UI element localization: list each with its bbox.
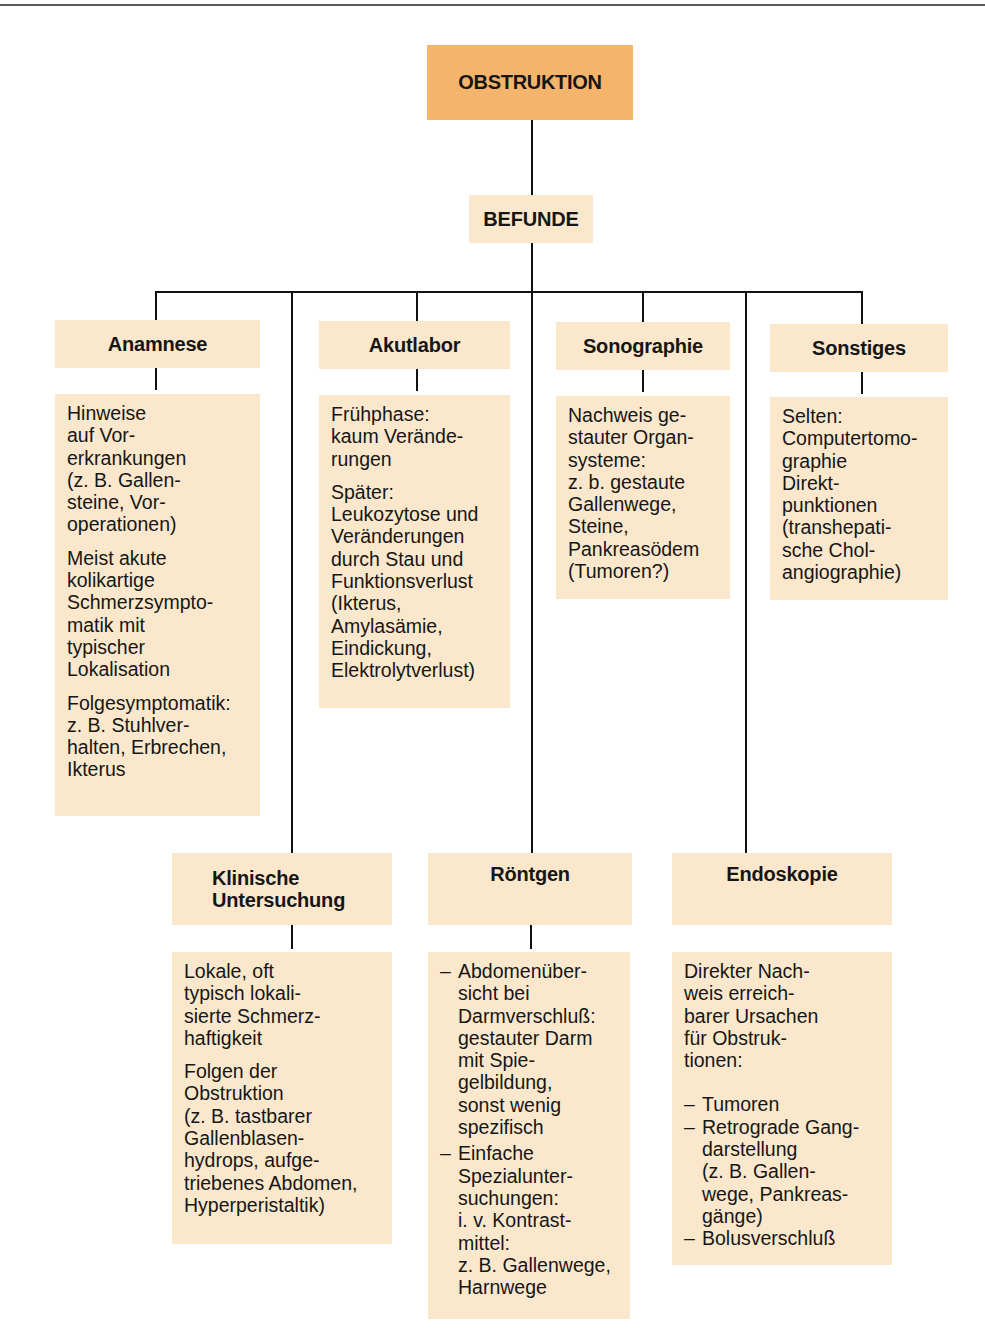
roentgen-bullet: Abdomenüber- sicht bei Darmverschluß: ge…	[440, 960, 620, 1138]
sonstiges-title: Sonstiges	[812, 337, 906, 360]
akutlabor-paragraph: Frühphase: kaum Verände- rungen	[331, 403, 500, 470]
connector-akutlabor	[416, 291, 418, 321]
roentgen-bullet-list: Abdomenüber- sicht bei Darmverschluß: ge…	[440, 960, 620, 1298]
connector-akutlabor-content	[416, 369, 418, 391]
klinische-paragraph: Folgen der Obstruktion (z. B. tastbarer …	[184, 1060, 382, 1216]
klinische-title: Klinische Untersuchung	[212, 867, 345, 911]
content-sonstiges: Selten: Computertomo- graphie Direkt- pu…	[770, 397, 948, 600]
connector-roentgen-content	[530, 925, 532, 949]
root-title: OBSTRUKTION	[458, 71, 601, 94]
header-klinische-untersuchung: Klinische Untersuchung	[172, 853, 392, 925]
connector-sonographie-content	[642, 370, 644, 392]
header-sonstiges: Sonstiges	[770, 324, 948, 372]
connector-sonstiges-content	[861, 372, 863, 394]
content-endoskopie: Direkter Nach- weis erreich- barer Ursac…	[672, 952, 892, 1265]
top-rule	[0, 4, 985, 6]
root-node-obstruktion: OBSTRUKTION	[427, 45, 633, 120]
akutlabor-paragraph: Später: Leukozytose und Veränderungen du…	[331, 481, 500, 682]
anamnese-paragraph: Meist akute kolikartige Schmerzsympto- m…	[67, 547, 250, 681]
connector-klinische	[291, 291, 293, 853]
content-anamnese: Hinweise auf Vor- erkrankungen (z. B. Ga…	[55, 394, 260, 816]
endoskopie-bullet: Tumoren	[684, 1093, 882, 1115]
header-sonographie: Sonographie	[556, 322, 730, 370]
connector-root-befunde	[531, 120, 533, 196]
connector-sonstiges	[861, 291, 863, 324]
befunde-title: BEFUNDE	[483, 208, 578, 231]
endoskopie-title: Endoskopie	[726, 863, 837, 886]
header-roentgen: Röntgen	[428, 853, 632, 925]
content-klinische-untersuchung: Lokale, oft typisch lokali- sierte Schme…	[172, 952, 392, 1244]
connector-anamnese-content	[155, 368, 157, 390]
node-befunde: BEFUNDE	[469, 195, 593, 243]
sonographie-paragraph: Nachweis ge- stauter Organ- systeme: z. …	[568, 404, 720, 582]
anamnese-title: Anamnese	[108, 333, 208, 356]
header-anamnese: Anamnese	[55, 320, 260, 368]
connector-anamnese	[155, 291, 157, 321]
anamnese-paragraph: Folgesymptomatik: z. B. Stuhlver- halten…	[67, 692, 250, 781]
roentgen-bullet: Einfache Spezialunter- suchungen: i. v. …	[440, 1142, 620, 1298]
content-sonographie: Nachweis ge- stauter Organ- systeme: z. …	[556, 396, 730, 599]
content-roentgen: Abdomenüber- sicht bei Darmverschluß: ge…	[428, 952, 630, 1319]
sonographie-title: Sonographie	[583, 335, 703, 358]
akutlabor-title: Akutlabor	[369, 334, 461, 357]
content-akutlabor: Frühphase: kaum Verände- rungen Später: …	[319, 395, 510, 708]
anamnese-paragraph: Hinweise auf Vor- erkrankungen (z. B. Ga…	[67, 402, 250, 536]
endoskopie-bullet: Retrograde Gang- darstellung (z. B. Gall…	[684, 1116, 882, 1227]
header-endoskopie: Endoskopie	[672, 853, 892, 925]
connector-sonographie	[642, 291, 644, 322]
endoskopie-bullet: Bolusverschluß	[684, 1227, 882, 1249]
endoskopie-bullet-list: Tumoren Retrograde Gang- darstellung (z.…	[684, 1093, 882, 1249]
connector-befunde-bus	[531, 243, 533, 853]
connector-endoskopie	[745, 291, 747, 853]
connector-horizontal-bus	[155, 291, 863, 293]
klinische-title-line2: Untersuchung	[212, 889, 345, 911]
sonstiges-paragraph: Selten: Computertomo- graphie Direkt- pu…	[782, 405, 938, 583]
roentgen-title: Röntgen	[490, 863, 570, 886]
klinische-paragraph: Lokale, oft typisch lokali- sierte Schme…	[184, 960, 382, 1049]
connector-klinische-content	[291, 925, 293, 949]
header-akutlabor: Akutlabor	[319, 321, 510, 369]
klinische-title-line1: Klinische	[212, 867, 345, 889]
endoskopie-intro: Direkter Nach- weis erreich- barer Ursac…	[684, 960, 882, 1071]
